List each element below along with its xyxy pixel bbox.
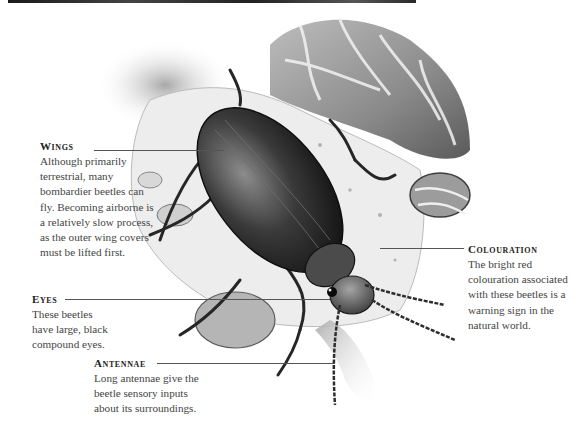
leader-line-eyes xyxy=(65,299,330,300)
callout-body: The bright red colouration associated wi… xyxy=(468,257,579,333)
callout-wings: Wings Although primarily terrestrial, ma… xyxy=(40,140,180,260)
callout-antennae: Antennae Long antennae give the beetle s… xyxy=(94,357,234,417)
callout-body: Long antennae give the beetle sensory in… xyxy=(94,371,234,417)
callout-body: These beetles have large, black compound… xyxy=(32,307,142,353)
callout-title: Colouration xyxy=(468,243,579,256)
callout-colouration: Colouration The bright red colouration a… xyxy=(468,243,579,333)
pebble xyxy=(195,292,275,348)
callout-eyes: Eyes These beetles have large, black com… xyxy=(32,293,142,353)
beetle-eye xyxy=(327,287,337,297)
leader-line-wings xyxy=(94,150,224,151)
callout-body: Although primarily terrestrial, many bom… xyxy=(40,154,180,260)
leader-line-antennae xyxy=(157,363,335,364)
leader-line-colouration xyxy=(380,248,464,249)
spray-plume xyxy=(315,320,380,402)
callout-title: Wings xyxy=(40,140,180,153)
